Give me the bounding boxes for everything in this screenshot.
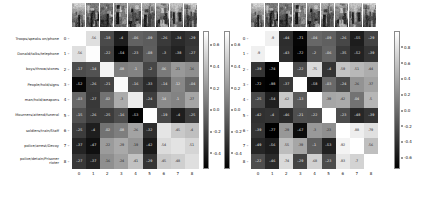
y-tick-label: 7 – — [60, 138, 71, 153]
heatmap-cell: .75 — [307, 62, 321, 77]
heatmap-cell: .04 — [350, 92, 364, 107]
heatmap-panel-right: 0.60.40.20.0-0.2-0.4 0 –1 –2 –3 –4 –5 –6… — [222, 0, 443, 197]
heatmap-cell-value: -.37 — [76, 144, 82, 147]
heatmap-cell: -.14 — [157, 77, 171, 92]
heatmap-cell-value: -.23 — [326, 160, 332, 163]
heatmap-cell-value: -.09 — [147, 37, 153, 40]
heatmap-cell: -.39 — [251, 123, 265, 138]
heatmap-cell-value: -.33 — [147, 83, 153, 86]
heatmap-cell-value: .45 — [175, 129, 180, 132]
heatmap-cell: .08 — [114, 123, 128, 138]
heatmap-cell-value: -.09 — [326, 37, 332, 40]
y-tick-label: 3 – — [60, 77, 71, 92]
heatmap-cell-value: -.34 — [175, 37, 181, 40]
heatmap-cell-value: -.22 — [104, 52, 110, 55]
heatmap-cell — [364, 154, 378, 169]
heatmap-cell: .45 — [171, 123, 185, 138]
heatmap-cell-value: -.4 — [270, 114, 274, 117]
heatmap-cell: -.29 — [364, 31, 378, 46]
heatmap-cell-value: -.54 — [269, 98, 275, 101]
heatmap-cell-value: -.72 — [255, 83, 261, 86]
heatmap-cell: -.71 — [293, 31, 307, 46]
heatmap-cell-value: .14 — [161, 98, 166, 101]
thumbnail-3-icon — [114, 3, 127, 27]
heatmap-cell-value: -.55 — [354, 37, 360, 40]
heatmap-cell — [114, 77, 128, 92]
row-label: police/detain/Prisoner rioter — [2, 154, 60, 169]
heatmap-cell-value: .08 — [119, 68, 124, 71]
heatmap-cell: -.18 — [100, 31, 114, 46]
y-tick-label: 6 – — [239, 123, 250, 138]
heatmap-cell: .42 — [336, 92, 350, 107]
heatmap-cell-value: -.52 — [354, 52, 360, 55]
heatmap-cell-value: .16 — [105, 160, 110, 163]
heatmap-cell: .16 — [100, 154, 114, 169]
x-tick-label: 4 — [128, 171, 142, 176]
heatmap-cell: -.72 — [251, 77, 265, 92]
heatmap-cell: -.22 — [293, 62, 307, 77]
heatmap-cell: -.98 — [265, 77, 279, 92]
x-tick-label: 7 — [171, 171, 185, 176]
heatmap-cell-value: .26 — [133, 129, 138, 132]
heatmap-panel-left: Troops/speaks on/phoneDonald/talks/telep… — [0, 0, 222, 197]
heatmap-cell: -.33 — [143, 77, 157, 92]
heatmap-cell-value: .51 — [189, 144, 194, 147]
x-tick-label: 1 — [86, 171, 100, 176]
heatmap-cell-value: -.98 — [269, 83, 275, 86]
heatmap-cell-value: -.42 — [255, 114, 261, 117]
heatmap-cell: -.34 — [171, 31, 185, 46]
heatmap-cell: .02 — [100, 123, 114, 138]
y-tick-label: 5 – — [239, 108, 250, 123]
heatmap-cell: -.22 — [307, 108, 321, 123]
heatmap-cell-value: .79 — [368, 129, 373, 132]
x-tick-label: 4 — [307, 171, 321, 176]
y-tick-label: 0 – — [60, 31, 71, 46]
y-tick-label: 1 – — [239, 46, 250, 61]
heatmap-cell-value: .92 — [340, 144, 345, 147]
heatmap-cell-value: .22 — [105, 144, 110, 147]
heatmap-cell-value: -.23 — [340, 114, 346, 117]
x-tick-label: 5 — [143, 171, 157, 176]
heatmap-cell-value: .56 — [368, 144, 373, 147]
colorbar-tick-label: 0.2 — [210, 85, 219, 90]
y-axis-ticks-right: 0 –1 –2 –3 –4 –5 –6 –7 –8 – — [239, 31, 250, 169]
heatmap-cell: -.37 — [72, 138, 86, 153]
heatmap-cell: .39 — [322, 92, 336, 107]
heatmap-cell — [293, 77, 307, 92]
heatmap-cell: .9 — [265, 31, 279, 46]
heatmap-cell: -.22 — [100, 46, 114, 61]
colorbar-right-secondary: 0.60.40.20.0-0.2-0.4 — [224, 31, 230, 169]
heatmap-cell: .27 — [185, 92, 199, 107]
heatmap-cell: .88 — [350, 123, 364, 138]
colorbar-tick-label: -0.6 — [401, 155, 412, 160]
heatmap-cell-value: -.23 — [132, 52, 138, 55]
heatmap-cell: -.37 — [86, 154, 100, 169]
colorbar-tick-label: -0.2 — [401, 123, 412, 128]
heatmap-cell-value: -.29 — [189, 37, 195, 40]
heatmap-cell: -.44 — [279, 31, 293, 46]
heatmap-cell: -.27 — [185, 46, 199, 61]
thumbnail-5-icon — [321, 3, 334, 27]
heatmap-cell: .12 — [171, 77, 185, 92]
row-label: People/hold/signs — [2, 77, 60, 92]
heatmap-cell-value: .02 — [105, 129, 110, 132]
heatmap-cell: -.74 — [265, 62, 279, 77]
heatmap-cell-value: .62 — [284, 98, 289, 101]
heatmap-cell-value: -.39 — [368, 52, 374, 55]
heatmap-cell-value: -.39 — [255, 68, 261, 71]
heatmap-cell-value: -.72 — [297, 52, 303, 55]
heatmap-cell-value: .06 — [161, 68, 166, 71]
heatmap-cell-value: -.16 — [132, 83, 138, 86]
x-axis-ticks-left: 012345678 — [72, 171, 199, 176]
heatmap-cell-value: .27 — [189, 98, 194, 101]
heatmap-cell: .56 — [72, 46, 86, 61]
heatmap-cell: .92 — [336, 138, 350, 153]
x-tick-label: 5 — [322, 171, 336, 176]
heatmap-cell-value: .3 — [120, 98, 123, 101]
thumbnail-1-icon — [265, 3, 278, 27]
thumbnail-strip-left — [72, 3, 199, 27]
heatmap-cell: .44 — [364, 62, 378, 77]
heatmap-cell-value: -.24 — [147, 98, 153, 101]
heatmap-cell: -.03 — [322, 77, 336, 92]
heatmap-cell-value: -.04 — [311, 37, 317, 40]
